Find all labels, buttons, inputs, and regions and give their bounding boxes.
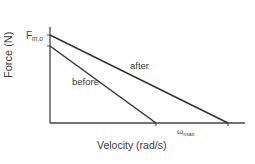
f-max-iso-annotation: Fm,o bbox=[26, 30, 43, 42]
x-axis-label: Velocity (rad/s) bbox=[97, 139, 166, 151]
series-label-before: before bbox=[72, 76, 99, 87]
series-before-line bbox=[50, 46, 156, 123]
omega-sub: max bbox=[183, 131, 194, 137]
omega-max-annotation: ωmax bbox=[177, 127, 195, 137]
y-axis-label: Force (N) bbox=[2, 32, 14, 78]
force-velocity-chart: Force (N) Velocity (rad/s) Fm,o ωmax bef… bbox=[0, 0, 255, 164]
f-sub: m,o bbox=[32, 35, 43, 42]
series-label-after: after bbox=[130, 60, 149, 71]
